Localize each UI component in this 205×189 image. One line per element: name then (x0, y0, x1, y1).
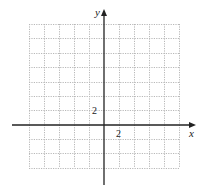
y-axis-arrow-icon (101, 9, 107, 16)
coordinate-plane: y x 2 2 (0, 0, 205, 189)
x-tick-label: 2 (116, 128, 121, 139)
y-axis-label: y (94, 6, 100, 18)
y-tick-label: 2 (92, 105, 97, 116)
x-axis-label: x (188, 127, 194, 139)
